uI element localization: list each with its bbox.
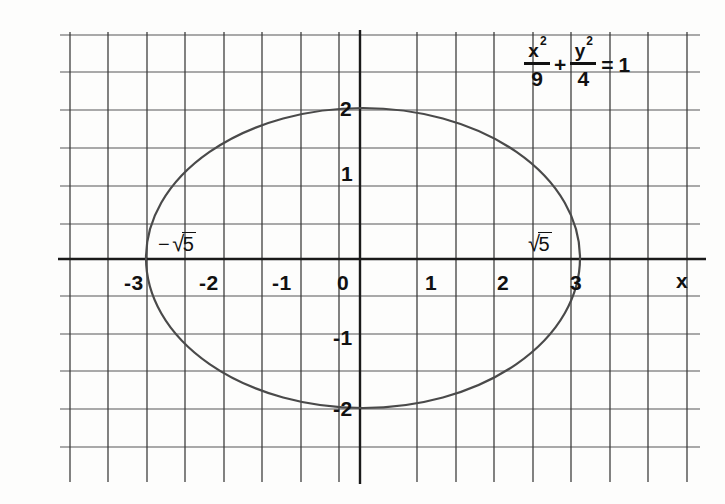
exponent-2: 2 [586, 34, 593, 48]
focus-left-label: −√5 [158, 232, 196, 255]
x-tick-label--3: -3 [124, 272, 144, 293]
radicand: 5 [182, 232, 197, 254]
y-tick-label--2: -2 [333, 398, 353, 419]
equation-result: 1 [614, 53, 631, 77]
variable-x: x [528, 40, 539, 61]
radicand: 5 [538, 232, 553, 254]
numerator-x: x2 [524, 40, 549, 62]
denominator-4: 4 [573, 65, 593, 89]
equals-sign: = [596, 53, 613, 77]
x-tick-label--2: -2 [199, 272, 219, 293]
denominator-9: 9 [527, 65, 547, 89]
focus-right-label: √5 [526, 232, 552, 255]
figure-canvas: -3 -2 -1 0 1 2 3 2 1 -1 -2 x −√5 √5 x2 9… [0, 0, 725, 504]
grid-horizontal-lines [60, 35, 700, 447]
x-tick-label-0: 0 [337, 272, 349, 293]
grid-vertical-lines [70, 32, 687, 482]
minus-sign: − [158, 233, 170, 255]
variable-y: y [575, 40, 586, 61]
y-tick-label-2: 2 [340, 98, 352, 119]
ellipse-equation: x2 9 + y2 4 = 1 [524, 40, 630, 89]
y-tick-label--1: -1 [333, 327, 353, 348]
x-axis-label: x [676, 270, 688, 291]
x-tick-label--1: -1 [272, 272, 292, 293]
fraction-y-over-4: y2 4 [570, 40, 596, 89]
x-tick-label-1: 1 [425, 272, 437, 293]
y-tick-label-1: 1 [341, 163, 353, 184]
numerator-y: y2 [571, 40, 596, 62]
exponent-2: 2 [540, 34, 547, 48]
plus-operator: + [550, 53, 570, 77]
x-tick-label-3: 3 [570, 272, 582, 293]
fraction-x-over-9: x2 9 [524, 40, 550, 89]
x-tick-label-2: 2 [497, 272, 509, 293]
